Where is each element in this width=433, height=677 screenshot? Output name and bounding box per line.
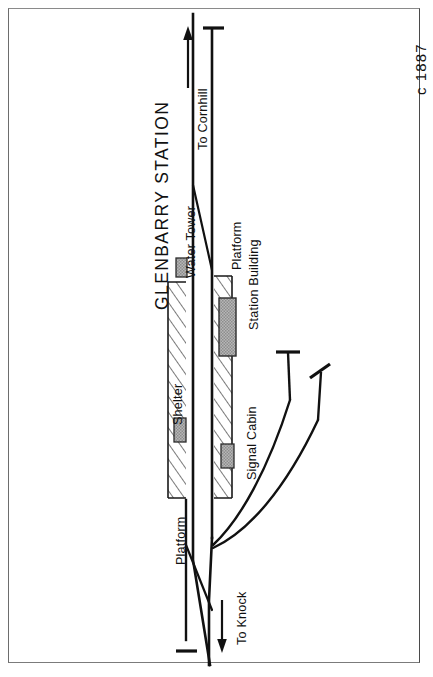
label-to-knock: To Knock — [235, 592, 249, 645]
plan-page: GLENBARRY STATION c 1887 To Cornhill To … — [0, 0, 433, 677]
label-to-cornhill: To Cornhill — [196, 88, 210, 150]
label-platform-down: Platform — [230, 222, 244, 271]
label-signal-cabin: Signal Cabin — [245, 406, 259, 480]
label-platform-up: Platform — [174, 517, 188, 566]
page-title: GLENBARRY STATION — [152, 101, 173, 310]
arrow-to-cornhill-icon — [183, 26, 193, 88]
label-water-tower: Water Tower — [184, 206, 198, 278]
label-shelter: Shelter — [171, 384, 185, 425]
station-building-block — [219, 298, 236, 356]
track-plan-drawing — [0, 0, 433, 677]
date-note: c 1887 — [412, 43, 429, 95]
signal-cabin-block — [221, 444, 234, 468]
arrow-to-knock-icon — [217, 600, 227, 653]
label-station-building: Station Building — [247, 239, 261, 330]
